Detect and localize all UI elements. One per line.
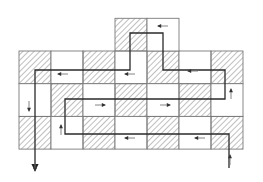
hatched-cell bbox=[83, 116, 115, 149]
hatched-cell bbox=[211, 116, 243, 149]
blank-cell bbox=[115, 116, 147, 149]
blank-cell bbox=[83, 84, 115, 117]
blank-cell bbox=[179, 51, 211, 84]
grid-cells bbox=[19, 18, 243, 149]
blank-cell bbox=[147, 84, 179, 117]
hatched-cell bbox=[179, 84, 211, 117]
hatched-cell bbox=[115, 84, 147, 117]
hatched-cell bbox=[51, 84, 83, 117]
blank-cell bbox=[211, 84, 243, 117]
blank-cell bbox=[51, 51, 83, 84]
blank-cell bbox=[179, 116, 211, 149]
hatched-cell bbox=[83, 51, 115, 84]
hatched-cell bbox=[115, 18, 147, 51]
blank-cell bbox=[115, 51, 147, 84]
snake-path-grid-diagram bbox=[0, 0, 263, 182]
hatched-cell bbox=[211, 51, 243, 84]
hatched-cell bbox=[147, 116, 179, 149]
blank-cell bbox=[51, 116, 83, 149]
arrow-down-icon bbox=[33, 161, 37, 172]
